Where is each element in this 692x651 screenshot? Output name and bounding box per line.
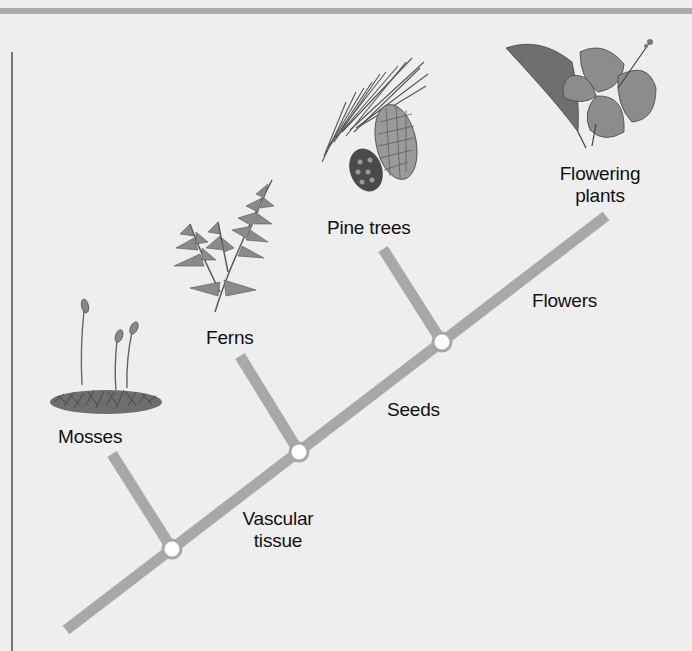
trait-label-vascular-line2: tissue bbox=[240, 530, 316, 552]
node-seeds bbox=[290, 443, 308, 461]
branch-ferns bbox=[240, 356, 299, 452]
branch-mosses bbox=[112, 454, 172, 549]
trait-label-flowers: Flowers bbox=[532, 290, 597, 312]
taxon-label-ferns: Ferns bbox=[206, 327, 254, 349]
trait-label-vascular-line1: Vascular bbox=[240, 508, 316, 530]
trait-label-vascular-tissue: Vascular tissue bbox=[240, 508, 316, 552]
cladogram-tree bbox=[0, 0, 692, 651]
taxon-label-flowering-line1: Flowering bbox=[552, 163, 648, 185]
trunk-line bbox=[66, 216, 606, 630]
taxon-label-flowering-plants: Flowering plants bbox=[552, 163, 648, 207]
trait-label-seeds: Seeds bbox=[387, 399, 440, 421]
taxon-label-pine-trees: Pine trees bbox=[327, 217, 411, 239]
node-vascular-tissue bbox=[163, 540, 181, 558]
node-flowers bbox=[433, 333, 451, 351]
branch-pines bbox=[383, 249, 442, 342]
taxon-label-flowering-line2: plants bbox=[552, 185, 648, 207]
taxon-label-mosses: Mosses bbox=[58, 426, 122, 448]
